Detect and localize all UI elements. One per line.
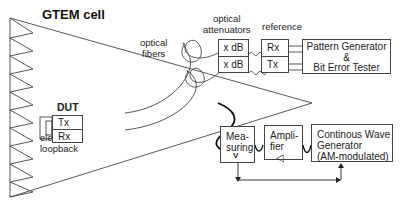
reference-tx-port: Tx bbox=[262, 57, 288, 73]
arrow-right-icon bbox=[336, 177, 341, 183]
absorber-icon bbox=[10, 18, 33, 197]
attenuator-box: x dB x dB bbox=[218, 39, 249, 73]
optical-fibers-label: optical fibers bbox=[140, 37, 167, 59]
reference-box: Rx Tx bbox=[261, 39, 289, 73]
amplifier-box: Ampli- fier ◁ bbox=[264, 125, 303, 160]
gtem-title: GTEM cell bbox=[42, 7, 105, 22]
dut-tx-port: Tx bbox=[53, 116, 82, 130]
attenuator-2: x dB bbox=[219, 57, 248, 73]
arrow-down-icon bbox=[235, 177, 241, 182]
reference-rx-port: Rx bbox=[262, 40, 288, 57]
reference-label: reference bbox=[262, 21, 302, 32]
amplifier-icon: ◁ bbox=[270, 152, 302, 163]
dut-label: DUT bbox=[57, 102, 79, 113]
pattern-generator-box: Pattern Generator & Bit Error Tester bbox=[302, 39, 391, 74]
attenuator-1: x dB bbox=[219, 40, 248, 57]
voltmeter-symbol: V bbox=[233, 150, 238, 161]
feedback-line bbox=[238, 162, 341, 180]
arrow-up-icon bbox=[338, 163, 344, 168]
dut-rx-port: Rx bbox=[53, 130, 82, 143]
cw-generator-box: Continous Wave Generator (AM-modulated) bbox=[311, 124, 393, 162]
optical-attenuators-label: optical attenuators bbox=[203, 13, 251, 35]
dut-box: Tx Rx bbox=[52, 115, 83, 143]
